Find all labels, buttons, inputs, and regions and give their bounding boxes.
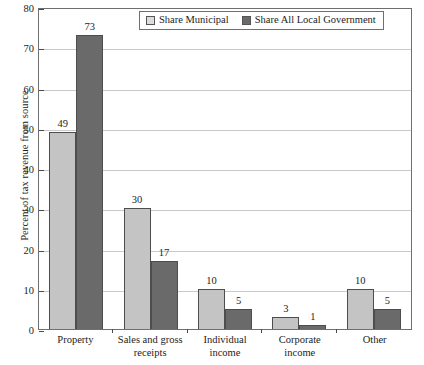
category-label-line: receipts — [113, 347, 188, 360]
bar-value-label: 3 — [283, 304, 288, 315]
bar-groups: 4973301710531105 — [39, 9, 411, 329]
x-axis-category-label: Sales and grossreceipts — [113, 334, 188, 359]
bar: 30 — [124, 208, 151, 329]
bar-value-label: 30 — [132, 195, 143, 206]
bar-group: 105 — [337, 9, 411, 329]
bar: 17 — [151, 261, 178, 329]
y-axis-tick-label: 80 — [24, 4, 35, 15]
y-axis-tick-label: 70 — [24, 44, 35, 55]
bar: 5 — [225, 309, 252, 329]
y-axis-tick-label: 0 — [29, 326, 34, 337]
bar-group: 4973 — [39, 9, 113, 329]
category-label-line: Corporate — [262, 334, 337, 347]
y-axis-tick-label: 60 — [24, 84, 35, 95]
bar-value-label: 49 — [57, 119, 68, 130]
x-axis-tick-mark — [336, 329, 337, 333]
bar-value-label: 5 — [385, 296, 390, 307]
y-axis-tick-label: 50 — [24, 125, 35, 136]
bar-value-label: 1 — [310, 312, 315, 323]
bar: 10 — [347, 289, 374, 329]
legend-item: Share Municipal — [146, 15, 229, 26]
bar: 10 — [198, 289, 225, 329]
legend-swatch-icon — [242, 16, 251, 25]
bar-group: 31 — [262, 9, 336, 329]
bar-value-label: 17 — [159, 248, 170, 259]
legend-swatch-icon — [146, 16, 155, 25]
x-axis-category-label: Corporateincome — [262, 334, 337, 359]
y-axis-tick-label: 30 — [24, 205, 35, 216]
x-axis-category-labels: PropertySales and grossreceiptsIndividua… — [38, 334, 412, 359]
category-label-line: Individual — [188, 334, 263, 347]
legend-label: Share Municipal — [159, 15, 229, 26]
bar: 1 — [299, 325, 326, 329]
bar: 3 — [272, 317, 299, 329]
bar-group: 105 — [188, 9, 262, 329]
plot-area: 01020304050607080 4973301710531105 — [38, 8, 412, 330]
category-label-line: income — [188, 347, 263, 360]
bar-value-label: 73 — [84, 22, 95, 33]
category-label-line: Sales and gross — [113, 334, 188, 347]
y-axis-tick-label: 10 — [24, 286, 35, 297]
chart-legend: Share Municipal Share All Local Governme… — [139, 11, 384, 30]
bar-value-label: 10 — [355, 276, 366, 287]
bar: 73 — [76, 35, 103, 329]
y-axis-tick-mark — [39, 331, 44, 332]
x-axis-tick-mark — [187, 329, 188, 333]
legend-item: Share All Local Government — [242, 15, 376, 26]
x-axis-tick-mark — [261, 329, 262, 333]
x-axis-category-label: Individualincome — [188, 334, 263, 359]
category-label-line: income — [262, 347, 337, 360]
x-axis-category-label: Property — [38, 334, 113, 359]
legend-label: Share All Local Government — [255, 15, 376, 26]
x-axis-category-label: Other — [337, 334, 412, 359]
x-axis-tick-mark — [112, 329, 113, 333]
bar-value-label: 5 — [236, 296, 241, 307]
bar-group: 3017 — [113, 9, 187, 329]
category-label-line: Other — [337, 334, 412, 347]
bar: 49 — [49, 132, 76, 329]
bar: 5 — [374, 309, 401, 329]
y-axis-tick-label: 20 — [24, 245, 35, 256]
category-label-line: Property — [38, 334, 113, 347]
bar-chart: Percent of tax revenue from source 01020… — [0, 0, 424, 365]
y-axis-tick-label: 40 — [24, 165, 35, 176]
bar-value-label: 10 — [206, 276, 217, 287]
